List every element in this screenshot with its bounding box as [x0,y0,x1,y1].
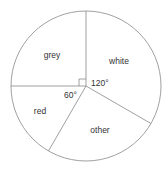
label-white: white [108,56,129,66]
label-angle-white: 120° [91,78,109,88]
label-grey: grey [44,50,61,60]
label-other: other [90,125,110,135]
label-angle-red: 60° [64,90,77,100]
pie-chart: grey white red other 120° 60° [0,0,167,173]
label-red: red [34,106,47,116]
